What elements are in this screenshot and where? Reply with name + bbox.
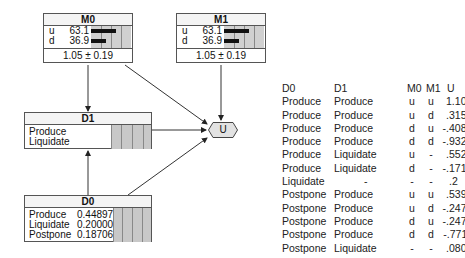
node-d1-title: D1 (25, 113, 151, 125)
d0-value-postpone: 0.18706 (77, 230, 111, 240)
node-u[interactable]: U (208, 122, 238, 138)
m0-bar-u (91, 29, 116, 33)
node-m0-states: u 63.1 d 36.9 (44, 26, 132, 49)
node-m0-expected: 1.05 ± 0.19 (44, 49, 132, 62)
m0-bar-d (91, 39, 106, 43)
node-d1[interactable]: D1 Produce Liquidate (24, 112, 152, 149)
node-m1-states: u 63.1 d 36.9 (177, 26, 265, 49)
d0-cells (113, 208, 151, 242)
node-d0[interactable]: D0 Produce 0.44897 Liquidate 0.20000 Pos… (24, 195, 152, 242)
m1-bar-u (224, 29, 249, 33)
m1-bar-d (224, 39, 239, 43)
node-d1-options: Produce Liquidate (25, 125, 151, 149)
m0-state-d: d 36.9 (44, 36, 132, 46)
node-d0-title: D0 (25, 196, 151, 208)
node-d0-options: Produce 0.44897 Liquidate 0.20000 Postpo… (25, 208, 151, 242)
node-m1[interactable]: M1 u 63.1 d 36.9 1.05 ± 0.19 (176, 13, 266, 63)
node-m0[interactable]: M0 u 63.1 d 36.9 1.05 ± 0.19 (43, 13, 133, 63)
node-m1-expected: 1.05 ± 0.19 (177, 49, 265, 62)
node-u-title: U (208, 124, 238, 136)
d1-option-liquidate[interactable]: Liquidate (29, 137, 70, 147)
d0-option-postpone[interactable]: Postpone (29, 230, 71, 240)
d1-cells (111, 125, 151, 149)
m1-state-d: d 36.9 (177, 36, 265, 46)
